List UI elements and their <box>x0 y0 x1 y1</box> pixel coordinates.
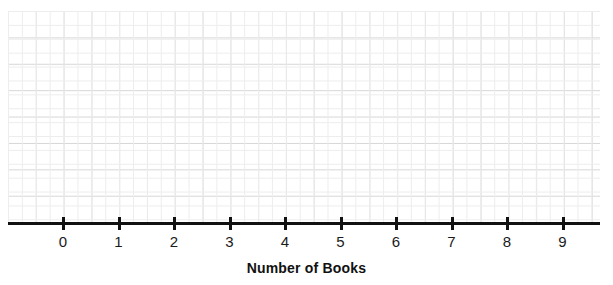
x-axis-tick-8 <box>506 217 509 230</box>
x-axis-tick-label-5: 5 <box>321 233 361 250</box>
grid-paper-background <box>8 11 600 222</box>
x-axis-tick-1 <box>118 217 121 230</box>
x-axis-tick-label-8: 8 <box>487 233 527 250</box>
chart-canvas: 0123456789 Number of Books <box>0 0 613 285</box>
x-axis-tick-label-4: 4 <box>265 233 305 250</box>
x-axis-tick-label-7: 7 <box>432 233 472 250</box>
x-axis-tick-label-3: 3 <box>210 233 250 250</box>
x-axis-tick-label-9: 9 <box>543 233 583 250</box>
x-axis-tick-2 <box>173 217 176 230</box>
x-axis-tick-label-2: 2 <box>154 233 194 250</box>
x-axis-tick-9 <box>562 217 565 230</box>
x-axis-title: Number of Books <box>0 260 613 276</box>
x-axis-tick-label-0: 0 <box>43 233 83 250</box>
x-axis-tick-label-1: 1 <box>99 233 139 250</box>
x-axis-tick-3 <box>229 217 232 230</box>
x-axis-tick-label-6: 6 <box>376 233 416 250</box>
x-axis-tick-7 <box>451 217 454 230</box>
x-axis-tick-0 <box>62 217 65 230</box>
x-axis-line <box>8 222 600 225</box>
x-axis-tick-6 <box>395 217 398 230</box>
x-axis-tick-5 <box>340 217 343 230</box>
x-axis-tick-4 <box>284 217 287 230</box>
